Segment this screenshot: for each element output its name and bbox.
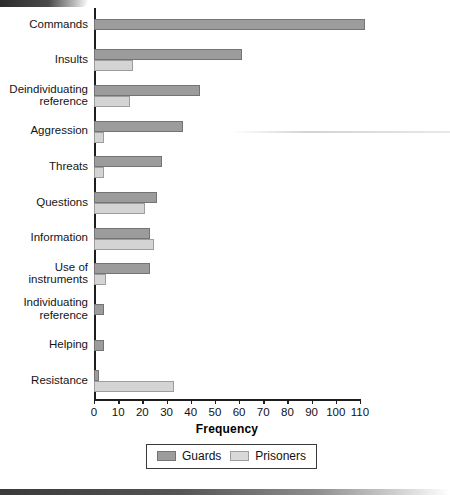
category-label: Use of instruments [29, 261, 88, 286]
bar-guards [94, 263, 150, 274]
x-axis-tick [142, 399, 143, 404]
chart-legend: Guards Prisoners [146, 444, 317, 469]
x-axis-tick [191, 399, 192, 404]
x-axis-tick [263, 399, 264, 404]
plot-area: CommandsInsultsDeindividuating reference… [0, 8, 450, 408]
x-axis-tick [360, 399, 361, 404]
scan-artifact-top [0, 0, 88, 7]
x-axis-tick-label: 30 [160, 406, 173, 418]
legend-item-prisoners: Prisoners [230, 449, 306, 463]
guards-swatch-icon [157, 451, 176, 461]
legend-item-guards: Guards [157, 449, 221, 463]
x-axis-tick [312, 399, 313, 404]
category-label: Questions [36, 196, 88, 209]
x-axis-tick [239, 399, 240, 404]
bar-prisoners [94, 274, 106, 285]
x-axis-tick [215, 399, 216, 404]
bar-guards [94, 304, 104, 315]
scan-artifact-bottom [0, 489, 450, 495]
x-axis-tick-label: 100 [326, 406, 345, 418]
x-axis-tick-label: 50 [209, 406, 222, 418]
category-label: Individuating reference [23, 296, 88, 321]
bar-guards [94, 370, 99, 381]
x-axis-line [94, 399, 360, 401]
prisoners-swatch-icon [230, 451, 249, 461]
category-label: Information [30, 231, 88, 244]
category-axis-labels: CommandsInsultsDeindividuating reference… [0, 8, 92, 400]
bar-prisoners [94, 167, 104, 178]
bar-prisoners [94, 60, 133, 71]
category-label: Resistance [31, 374, 88, 387]
x-axis-tick [94, 399, 95, 404]
legend-label-prisoners: Prisoners [255, 449, 306, 463]
x-axis-tick-label: 90 [305, 406, 318, 418]
bar-guards [94, 19, 365, 30]
x-axis-tick [118, 399, 119, 404]
x-axis-tick [287, 399, 288, 404]
bar-guards [94, 228, 150, 239]
bar-prisoners [94, 203, 145, 214]
category-label: Aggression [30, 124, 88, 137]
category-label: Threats [49, 160, 88, 173]
category-label: Deindividuating reference [9, 83, 88, 108]
bar-guards [94, 49, 242, 60]
bars-container [94, 8, 450, 400]
bar-prisoners [94, 239, 154, 250]
x-axis-tick-label: 10 [112, 406, 125, 418]
x-axis-tick-label: 0 [91, 406, 97, 418]
category-label: Commands [29, 18, 88, 31]
bar-guards [94, 85, 200, 96]
x-axis-tick-label: 110 [351, 406, 369, 418]
bar-guards [94, 121, 183, 132]
x-axis-tick [167, 399, 168, 404]
bar-prisoners [94, 381, 174, 392]
x-axis-tick-label: 70 [257, 406, 270, 418]
x-axis-tick-label: 60 [233, 406, 246, 418]
x-axis-tick [336, 399, 337, 404]
x-axis-title: Frequency [94, 422, 360, 436]
x-axis-tick-label: 80 [281, 406, 294, 418]
bar-prisoners [94, 132, 104, 143]
bar-guards [94, 156, 162, 167]
x-axis-tick-label: 20 [136, 406, 149, 418]
legend-label-guards: Guards [182, 449, 221, 463]
x-axis-tick-label: 40 [184, 406, 197, 418]
bar-prisoners [94, 96, 130, 107]
bar-guards [94, 192, 157, 203]
category-label: Helping [49, 338, 88, 351]
x-axis: 0102030405060708090100110 [94, 399, 394, 400]
bar-guards [94, 340, 104, 351]
category-label: Insults [55, 53, 88, 66]
bar-chart-figure: CommandsInsultsDeindividuating reference… [0, 0, 450, 495]
